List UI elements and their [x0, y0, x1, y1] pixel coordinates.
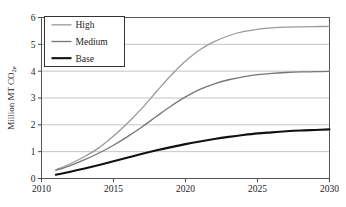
legend-label-high: High	[76, 20, 95, 30]
x-tick-label-2025: 2025	[248, 184, 267, 194]
y-tick-label-5: 5	[31, 40, 36, 50]
legend-label-medium: Medium	[76, 37, 109, 47]
y-tick-label-1: 1	[31, 147, 36, 157]
chart-figure: 0123456 20102015202020252030 Million MT …	[0, 0, 346, 207]
legend-label-base: Base	[76, 54, 94, 64]
y-tick-label-2: 2	[31, 120, 36, 130]
y-axis-title-text: Million MT CO2e	[6, 66, 17, 130]
x-tick-label-2010: 2010	[32, 184, 51, 194]
y-tick-label-0: 0	[31, 174, 36, 184]
x-tick-label-2015: 2015	[104, 184, 123, 194]
y-tick-label-6: 6	[31, 13, 36, 23]
y-tick-label-3: 3	[31, 93, 36, 103]
y-axis-title-main: Million MT CO	[6, 72, 16, 130]
line-chart: 0123456 20102015202020252030 Million MT …	[0, 0, 346, 207]
x-tick-label-2020: 2020	[176, 184, 195, 194]
x-tick-label-2030: 2030	[320, 184, 339, 194]
chart-legend: HighMediumBase	[45, 17, 125, 67]
y-axis-title-subscript: 2e	[10, 66, 17, 72]
y-tick-label-4: 4	[31, 67, 36, 77]
y-axis-title: Million MT CO2e	[6, 66, 17, 130]
